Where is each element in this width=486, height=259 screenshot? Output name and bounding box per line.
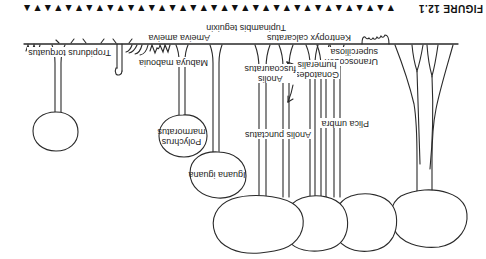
stump-symbol bbox=[115, 44, 122, 75]
label-polychrus-marmoratus: Polychrus marmoratus bbox=[156, 127, 207, 146]
grass-arcs-symbol bbox=[126, 45, 148, 55]
canopy-large-tree bbox=[391, 190, 467, 248]
rotated-figure: Uranoscodon superciliosa Plica umbra Gon… bbox=[0, 0, 486, 259]
figure-page: Uranoscodon superciliosa Plica umbra Gon… bbox=[0, 0, 486, 259]
small-right-canopy bbox=[33, 112, 78, 151]
label-iguana-iguana: Iguana iguana bbox=[187, 170, 247, 180]
label-anolis-fuscoauratus: Anolis fuscoauratus bbox=[243, 64, 297, 83]
large-tree-trunk bbox=[395, 45, 453, 193]
label-plica-umbra: Plica umbra bbox=[320, 119, 370, 129]
label-ameiva-ameiva: Ameiva ameiva bbox=[147, 33, 211, 43]
label-kentropyx-calcaratus: Kentropyx calcaratus bbox=[266, 33, 352, 43]
label-mabuya-mabouia: Mabuya mabouia bbox=[138, 58, 209, 68]
root-ticks bbox=[56, 39, 132, 43]
water-pool bbox=[362, 35, 389, 44]
label-tropidurus-torquatus: Tropidurus torquatus bbox=[27, 48, 112, 58]
mabuya-squiggle-symbol bbox=[150, 45, 170, 53]
label-anolis-punctatus: Anolis punctatus bbox=[244, 130, 312, 140]
canopy-4 bbox=[213, 196, 303, 254]
figure-caption: FIGURE 12.1 bbox=[419, 3, 483, 14]
ground-line bbox=[24, 35, 458, 44]
label-gonatodes-humeralis: Gonatodes humeralis bbox=[294, 60, 340, 79]
label-tupinambis-teguixin: Tupinambis teguixin bbox=[205, 23, 287, 33]
triangle-ornament-band: ▼▲▼▲▼▲▼▲▼▲▼▲▼▲▼▲▼▲▼▲▼▲▼▲▼▲▼▲▼▲▼▲▼▲▼▲▼▲▼▲… bbox=[22, 3, 396, 15]
